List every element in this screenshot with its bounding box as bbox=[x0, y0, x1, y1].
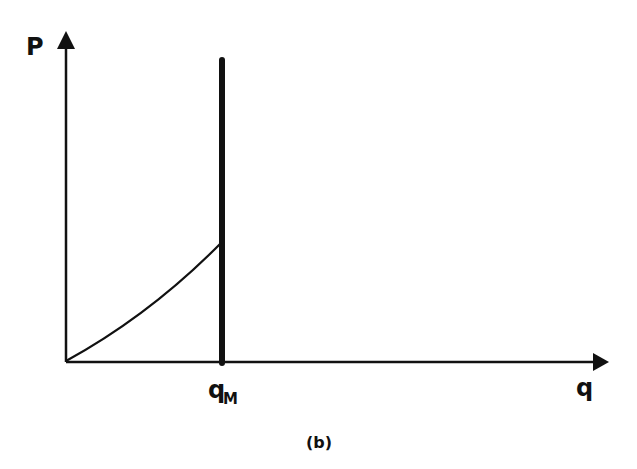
qm-label-subscript: M bbox=[223, 390, 238, 408]
y-axis-label: P bbox=[26, 33, 44, 61]
y-axis bbox=[57, 31, 75, 362]
diagram-canvas: P q q M (b) bbox=[0, 0, 637, 469]
x-axis bbox=[66, 353, 609, 371]
figure-caption: (b) bbox=[306, 433, 332, 452]
rising-curve bbox=[66, 243, 221, 361]
x-axis-arrow-icon bbox=[593, 353, 609, 371]
y-axis-arrow-icon bbox=[57, 31, 75, 49]
x-axis-label: q bbox=[576, 374, 593, 402]
